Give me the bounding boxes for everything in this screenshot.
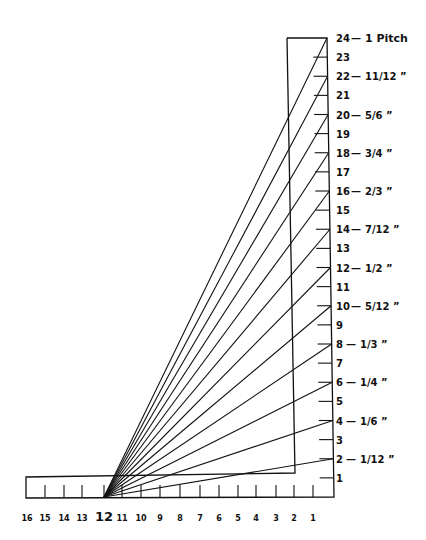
pitch-line-16 <box>104 191 329 497</box>
run-label-12: 12 <box>95 509 113 524</box>
rise-scale-labels: 24—1 Pitch2322—11/12 ”2120—5/6 ”1918—3/4… <box>336 32 408 484</box>
run-label-2: 2 <box>291 514 297 523</box>
run-label-6: 6 <box>216 514 222 523</box>
run-label-1: 1 <box>310 514 316 523</box>
pitch-separator: — <box>346 454 356 465</box>
rise-label-13: 13 <box>336 243 350 254</box>
pitch-diagram: 24—1 Pitch2322—11/12 ”2120—5/6 ”1918—3/4… <box>0 0 426 540</box>
pitch-label-20: 5/6 ” <box>365 110 393 121</box>
rise-label-19: 19 <box>336 129 350 140</box>
run-scale-ticks <box>45 485 313 497</box>
run-label-5: 5 <box>235 514 241 523</box>
pitch-separator: — <box>346 377 356 388</box>
pitch-line-12 <box>104 268 331 498</box>
run-label-14: 14 <box>58 514 70 523</box>
rise-label-15: 15 <box>336 205 350 216</box>
pitch-label-4: 1/6 ” <box>360 416 388 427</box>
rise-label-5: 5 <box>336 396 343 407</box>
pitch-label-16: 2/3 ” <box>365 186 393 197</box>
pitch-line-14 <box>104 229 330 497</box>
rise-label-17: 17 <box>336 167 350 178</box>
framing-square <box>26 38 334 498</box>
pitch-separator: — <box>351 263 361 274</box>
run-label-8: 8 <box>177 514 183 523</box>
rise-label-3: 3 <box>336 435 343 446</box>
rise-label-23: 23 <box>336 52 350 63</box>
rise-label-1: 1 <box>336 473 343 484</box>
pitch-diagram-canvas: 24—1 Pitch2322—11/12 ”2120—5/6 ”1918—3/4… <box>0 0 426 540</box>
rise-label-21: 21 <box>336 90 350 101</box>
run-scale-labels: 16151413121110987654321 <box>21 509 316 524</box>
pitch-label-24: 1 Pitch <box>365 32 408 45</box>
rise-label-9: 9 <box>336 320 343 331</box>
pitch-label-12: 1/2 ” <box>365 263 393 274</box>
rise-label-7: 7 <box>336 358 343 369</box>
rise-label-11: 11 <box>336 282 350 293</box>
framing-square-outline <box>26 38 334 498</box>
pitch-separator: — <box>351 301 361 312</box>
pitch-separator: — <box>351 110 361 121</box>
pitch-separator: — <box>351 71 361 82</box>
pitch-separator: — <box>346 339 356 350</box>
rise-label-22: 22 <box>336 71 350 82</box>
rise-label-12: 12 <box>336 263 350 274</box>
rise-label-18: 18 <box>336 148 350 159</box>
run-label-13: 13 <box>76 514 87 523</box>
rise-label-4: 4 <box>336 416 343 427</box>
pitch-separator: — <box>346 416 356 427</box>
run-label-7: 7 <box>197 514 203 523</box>
rise-label-20: 20 <box>336 110 350 121</box>
rise-label-16: 16 <box>336 186 350 197</box>
run-label-16: 16 <box>21 514 33 523</box>
pitch-separator: — <box>351 148 361 159</box>
fan-lines <box>104 38 333 497</box>
run-label-9: 9 <box>157 514 163 523</box>
rise-label-14: 14 <box>336 224 350 235</box>
pitch-label-8: 1/3 ” <box>360 339 388 350</box>
run-label-3: 3 <box>273 514 279 523</box>
pitch-separator: — <box>351 186 361 197</box>
rise-label-10: 10 <box>336 301 350 312</box>
pitch-separator: — <box>351 33 361 44</box>
pitch-label-18: 3/4 ” <box>365 148 393 159</box>
pitch-label-14: 7/12 ” <box>365 224 400 235</box>
pitch-label-10: 5/12 ” <box>365 301 400 312</box>
run-label-11: 11 <box>116 514 128 523</box>
run-label-4: 4 <box>253 514 259 523</box>
rise-label-2: 2 <box>336 454 343 465</box>
pitch-separator: — <box>351 224 361 235</box>
pitch-line-10 <box>104 306 331 497</box>
pitch-label-22: 11/12 ” <box>365 71 407 82</box>
pitch-label-6: 1/4 ” <box>360 377 388 388</box>
rise-label-24: 24 <box>336 33 350 44</box>
rise-label-6: 6 <box>336 377 343 388</box>
run-label-10: 10 <box>135 514 147 523</box>
run-label-15: 15 <box>39 514 51 523</box>
pitch-label-2: 1/12 ” <box>360 454 395 465</box>
rise-label-8: 8 <box>336 339 343 350</box>
